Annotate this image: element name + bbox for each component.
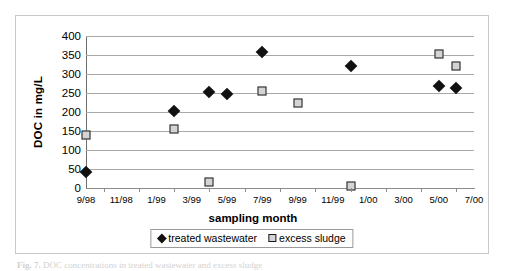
gridline-y-400 xyxy=(86,36,474,37)
xtick-mark-7 xyxy=(315,188,316,192)
x-axis-title: sampling month xyxy=(16,212,490,224)
chart-legend: treated wastewaterexcess sludge xyxy=(150,229,353,248)
gridline-y-100 xyxy=(86,150,474,151)
data-point-excess-sludge-7 xyxy=(452,62,461,71)
data-point-treated-wastewater-6 xyxy=(432,80,445,93)
xtick-mark-10 xyxy=(421,188,422,192)
gridline-y-150 xyxy=(86,131,474,132)
data-point-excess-sludge-4 xyxy=(293,98,302,107)
ytick-label-350: 350 xyxy=(62,49,81,61)
xtick-label-9-99: 9/99 xyxy=(288,194,307,205)
legend-label: treated wastewater xyxy=(168,232,257,244)
xtick-label-1-00: 1/00 xyxy=(359,194,378,205)
figure-caption-text: DOC concentrations in treated wastewater… xyxy=(43,260,262,270)
xtick-mark-5 xyxy=(245,188,246,192)
xtick-mark-1 xyxy=(104,188,105,192)
xtick-mark-8 xyxy=(351,188,352,192)
data-point-treated-wastewater-0 xyxy=(80,166,93,179)
filled-diamond-icon xyxy=(157,233,167,243)
data-point-treated-wastewater-1 xyxy=(168,104,181,117)
data-point-treated-wastewater-4 xyxy=(256,46,269,59)
xtick-label-7-00: 7/00 xyxy=(465,194,484,205)
xtick-label-5-00: 5/00 xyxy=(429,194,448,205)
plot-area: 400350300250200150100500 xyxy=(86,36,474,188)
gridline-y-50 xyxy=(86,169,474,170)
gridline-y-200 xyxy=(86,112,474,113)
ytick-label-250: 250 xyxy=(62,87,81,99)
figure-frame: DOC in mg/L 400350300250200150100500 sam… xyxy=(15,15,489,254)
legend-label: excess sludge xyxy=(279,232,346,244)
ytick-label-300: 300 xyxy=(62,68,81,80)
gridline-y-350 xyxy=(86,55,474,56)
figure-caption: Fig. 7. DOC concentrations in treated wa… xyxy=(17,260,262,270)
ytick-label-150: 150 xyxy=(62,125,81,137)
data-point-excess-sludge-3 xyxy=(258,86,267,95)
ytick-label-200: 200 xyxy=(62,106,81,118)
data-point-excess-sludge-6 xyxy=(434,50,443,59)
xtick-mark-4 xyxy=(209,188,210,192)
data-point-treated-wastewater-5 xyxy=(344,59,357,72)
legend-entry-excess-sludge[interactable]: excess sludge xyxy=(268,232,346,244)
data-point-treated-wastewater-2 xyxy=(203,86,216,99)
gridline-y-300 xyxy=(86,74,474,75)
xtick-mark-11 xyxy=(456,188,457,192)
gridline-y-250 xyxy=(86,93,474,94)
xtick-label-1-99: 1/99 xyxy=(147,194,166,205)
xtick-mark-9 xyxy=(386,188,387,192)
y-axis-title: DOC in mg/L xyxy=(32,76,44,148)
ytick-label-0: 0 xyxy=(75,182,81,194)
xtick-label-9-98: 9/98 xyxy=(77,194,96,205)
data-point-excess-sludge-2 xyxy=(205,178,214,187)
xtick-label-3-00: 3/00 xyxy=(394,194,413,205)
ytick-label-50: 50 xyxy=(68,163,81,175)
ytick-label-400: 400 xyxy=(62,30,81,42)
legend-entry-treated-wastewater[interactable]: treated wastewater xyxy=(158,232,257,244)
xtick-label-7-99: 7/99 xyxy=(253,194,272,205)
xtick-mark-3 xyxy=(174,188,175,192)
xtick-mark-2 xyxy=(139,188,140,192)
data-point-excess-sludge-0 xyxy=(82,130,91,139)
xtick-label-5-99: 5/99 xyxy=(218,194,237,205)
xtick-label-3-99: 3/99 xyxy=(183,194,202,205)
xtick-mark-6 xyxy=(280,188,281,192)
open-square-icon xyxy=(268,234,276,242)
ytick-label-100: 100 xyxy=(62,144,81,156)
figure-caption-label: Fig. 7. xyxy=(17,260,41,270)
data-point-treated-wastewater-3 xyxy=(221,87,234,100)
data-point-excess-sludge-1 xyxy=(170,125,179,134)
xtick-label-11-99: 11/99 xyxy=(321,194,344,205)
xtick-label-11-98: 11/98 xyxy=(110,194,133,205)
